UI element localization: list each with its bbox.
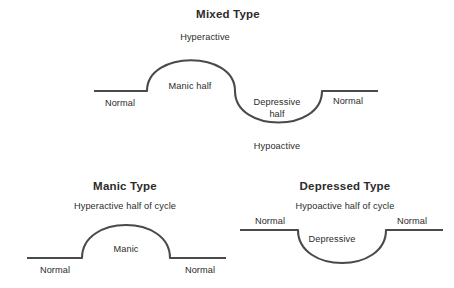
mood-cycle-figure: Mixed Type Hyperactive Manic half Normal… bbox=[0, 0, 454, 288]
mixed-type-hyperactive-label: Hyperactive bbox=[180, 32, 230, 42]
manic-type-left-normal-label: Normal bbox=[40, 265, 70, 275]
manic-type-title: Manic Type bbox=[93, 180, 157, 192]
mixed-type-right-normal-label: Normal bbox=[333, 96, 363, 106]
mixed-type-manic-half-label: Manic half bbox=[169, 81, 212, 91]
mixed-type-title: Mixed Type bbox=[196, 8, 260, 20]
depressed-type-title: Depressed Type bbox=[300, 180, 391, 192]
depressed-type-right-normal-label: Normal bbox=[397, 216, 427, 226]
mixed-type-left-normal-label: Normal bbox=[105, 98, 135, 108]
depressed-type-subtitle: Hypoactive half of cycle bbox=[296, 201, 395, 211]
manic-type-manic-label: Manic bbox=[113, 244, 138, 254]
depressed-type-depressive-label: Depressive bbox=[309, 234, 356, 244]
manic-type-subtitle: Hyperactive half of cycle bbox=[74, 201, 176, 211]
mixed-type-hypoactive-label: Hypoactive bbox=[254, 141, 300, 151]
waveform-canvas bbox=[0, 0, 454, 288]
manic-type-right-normal-label: Normal bbox=[185, 265, 215, 275]
mixed-type-depressive-half-label-line1: Depressive bbox=[254, 97, 301, 107]
mixed-type-waveform bbox=[94, 60, 378, 122]
depressed-type-left-normal-label: Normal bbox=[255, 216, 285, 226]
mixed-type-depressive-half-label-line2: half bbox=[269, 109, 284, 119]
